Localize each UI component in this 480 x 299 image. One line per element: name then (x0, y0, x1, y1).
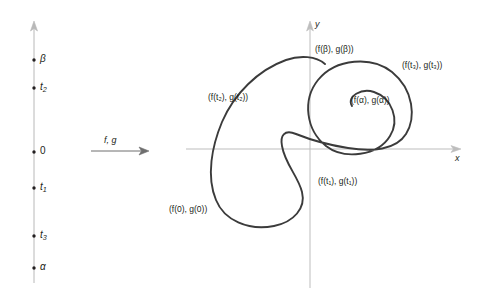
parameter-interval-line (31, 21, 38, 283)
parameter-tick-label-t2-sub: 2 (43, 85, 47, 94)
mapping-arrow (91, 147, 149, 155)
parameter-tick-label-t3-sub: 3 (43, 233, 47, 242)
point-label-f-t1: (f(t₁), g(t₁)) (318, 177, 357, 186)
curve-stroke (211, 57, 412, 227)
point-label-f-alpha: (f(α), g(α)) (351, 96, 390, 105)
parametric-curve-figure: β t2 0 t1 t3 α f, g y x (f(β), g(β)) (f(… (0, 0, 480, 299)
tick-dot-zero (32, 150, 35, 153)
point-label-f-t2: (f(t₂), g(t₂)) (208, 93, 248, 102)
x-axis-label: x (455, 154, 460, 163)
parameter-tick-label-alpha: α (40, 262, 46, 272)
point-label-f-t3: (f(t₃), g(t₃)) (402, 61, 442, 70)
point-label-f-beta: (f(β), g(β)) (315, 45, 354, 54)
parameter-tick-label-t1: t1 (40, 182, 47, 193)
figure-canvas (0, 0, 480, 299)
tick-dot-beta (32, 58, 35, 61)
mapping-arrow-label: f, g (104, 136, 117, 145)
point-label-f-0: (f(0), g(0)) (169, 205, 207, 214)
tick-dot-t2 (32, 86, 35, 89)
parameter-tick-label-zero: 0 (40, 146, 46, 156)
parameter-tick-label-t2: t2 (40, 82, 47, 93)
y-axis-label: y (315, 20, 320, 29)
tick-dot-t3 (32, 234, 35, 237)
parameter-tick-label-t1-sub: 1 (43, 185, 47, 194)
tick-dot-alpha (32, 266, 35, 269)
parameter-tick-label-beta: β (40, 54, 46, 64)
parametric-curve (211, 57, 412, 227)
parameter-tick-label-t3: t3 (40, 230, 47, 241)
tick-dot-t1 (32, 186, 35, 189)
